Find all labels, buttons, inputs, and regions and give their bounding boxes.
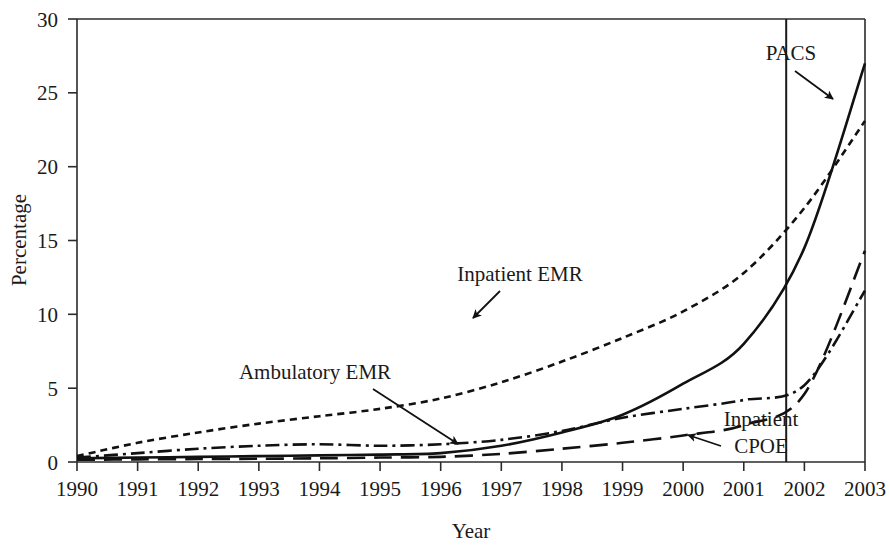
annotation-label-inpatient-cpoe: InpatientCPOE bbox=[724, 407, 799, 458]
annotation-label-pacs: PACS bbox=[766, 41, 817, 65]
annotation-arrow-inpatient-emr bbox=[473, 291, 500, 318]
axes-frame bbox=[77, 19, 865, 462]
x-tick-label-1998: 1998 bbox=[541, 477, 583, 501]
y-axis-title: Percentage bbox=[7, 194, 31, 286]
y-tick-label-25: 25 bbox=[37, 81, 58, 105]
x-tick-label-1990: 1990 bbox=[56, 477, 98, 501]
y-tick-label-30: 30 bbox=[37, 8, 58, 32]
x-tick-label-1993: 1993 bbox=[238, 477, 280, 501]
x-tick-label-1996: 1996 bbox=[420, 477, 462, 501]
x-tick-label-1995: 1995 bbox=[359, 477, 401, 501]
x-tick-label-1991: 1991 bbox=[117, 477, 159, 501]
y-tick-label-10: 10 bbox=[37, 303, 58, 327]
annotation-label-ambulatory-emr: Ambulatory EMR bbox=[239, 360, 391, 384]
y-tick-label-5: 5 bbox=[48, 377, 59, 401]
series-line-inpatient-emr bbox=[77, 121, 865, 456]
x-axis-ticks: 1990199119921993199419951996199719981999… bbox=[56, 462, 886, 501]
line-chart-canvas: 0 5 10 15 20 25 30 199019911992199319941… bbox=[0, 0, 890, 547]
x-tick-label-2003: 2003 bbox=[844, 477, 886, 501]
x-tick-label-1992: 1992 bbox=[177, 477, 219, 501]
annotation-arrow-pacs bbox=[795, 71, 833, 99]
y-tick-label-20: 20 bbox=[37, 155, 58, 179]
y-tick-label-15: 15 bbox=[37, 229, 58, 253]
x-tick-label-1997: 1997 bbox=[480, 477, 522, 501]
x-tick-label-1999: 1999 bbox=[602, 477, 644, 501]
x-tick-label-2002: 2002 bbox=[783, 477, 825, 501]
x-tick-label-2001: 2001 bbox=[723, 477, 765, 501]
y-axis-ticks: 0 5 10 15 20 25 30 bbox=[37, 8, 77, 475]
x-tick-label-2000: 2000 bbox=[662, 477, 704, 501]
chart-figure: 0 5 10 15 20 25 30 199019911992199319941… bbox=[0, 0, 890, 547]
series-line-pacs bbox=[77, 63, 865, 458]
annotations-group: Inpatient EMRAmbulatory EMRPACSInpatient… bbox=[239, 41, 833, 458]
x-axis-title: Year bbox=[452, 519, 491, 543]
y-tick-label-0: 0 bbox=[48, 451, 59, 475]
x-tick-label-1994: 1994 bbox=[298, 477, 341, 501]
annotation-arrow-inpatient-cpoe bbox=[688, 435, 721, 446]
annotation-label-inpatient-emr: Inpatient EMR bbox=[457, 262, 582, 286]
